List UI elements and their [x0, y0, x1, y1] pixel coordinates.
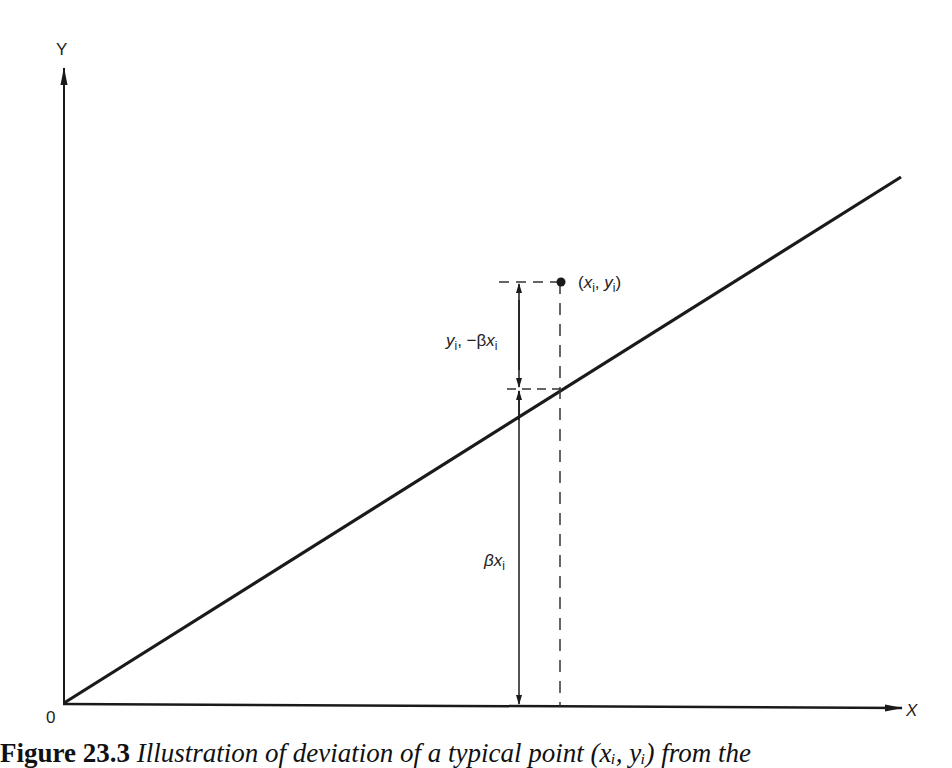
- point-label: (xi, yi): [578, 273, 621, 295]
- figure-number: Figure 23.3: [0, 738, 130, 768]
- fitted-value-label: βxi: [483, 551, 505, 573]
- regression-line: [64, 177, 901, 703]
- x-axis-label: X: [905, 701, 918, 720]
- figure-caption: Figure 23.3 Illustration of deviation of…: [0, 738, 952, 768]
- deviation-label: yi, −βxi: [445, 331, 498, 353]
- origin-label: 0: [46, 708, 55, 727]
- x-axis: [63, 704, 902, 708]
- data-point: [557, 278, 566, 287]
- y-axis-label: Y: [56, 40, 67, 59]
- figure-caption-text: Illustration of deviation of a typical p…: [130, 738, 751, 768]
